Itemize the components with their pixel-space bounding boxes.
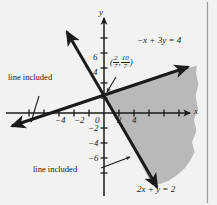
x-tick-label-neg2: −2 [74,116,85,125]
x-tick-label-neg4: −4 [55,116,66,125]
paren-close: ) [130,57,133,67]
equation-upper-body: x + 3y = 4 [143,35,181,45]
y-tick-label-neg6: −6 [88,154,99,163]
shaded-solution-region [105,66,199,186]
equation-label-lower: 2x + y = 2 [137,185,175,194]
equation-label-upper: −x + 3y = 4 [137,36,181,45]
y-axis-label: y [99,8,103,17]
y-tick-label-6: 6 [93,53,98,62]
y-coordinate-fraction: 107 [121,55,130,71]
x-tick-label-2: 2 [117,116,122,125]
y-coordinate-denominator: 7 [121,63,130,70]
line-included-upper-note: line included [8,73,52,82]
x-axis-label: x [194,107,198,116]
y-tick-label-neg2: −2 [88,124,99,133]
y-tick-label-neg4: −4 [88,139,99,148]
graph-figure: x y −4 −2 0 2 4 6 4 −2 −4 −6 −x + 3y = 4… [0,0,217,205]
intersection-point-label: (27,107) [110,55,133,71]
line-included-lower-note: line included [33,165,77,174]
x-tick-label-4: 4 [132,116,137,125]
coordinate-plane-svg [0,0,217,205]
y-tick-label-4: 4 [93,68,98,77]
